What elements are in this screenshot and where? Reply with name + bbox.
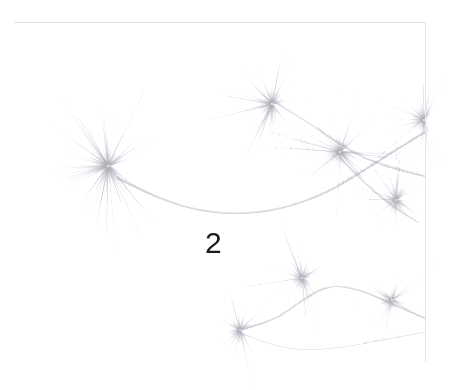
pine-branch-illustration: [0, 0, 450, 390]
figure-number-label: 2: [205, 227, 222, 259]
figure-plate: 2: [0, 0, 450, 390]
